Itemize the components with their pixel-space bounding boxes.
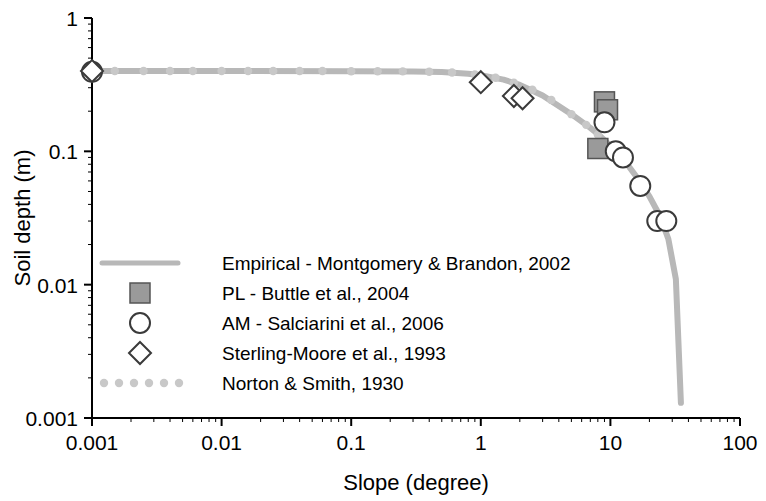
series-norton-smith-point xyxy=(547,96,555,104)
series-norton-smith-point xyxy=(269,67,277,75)
series-norton-smith-point xyxy=(399,67,407,75)
legend-marker-norton-smith-dots xyxy=(115,379,123,387)
series-am-salciarini-point xyxy=(656,211,676,231)
series-norton-smith-point xyxy=(217,67,225,75)
legend-marker-norton-smith-dots xyxy=(100,379,108,387)
x-tick-label: 0.1 xyxy=(337,431,366,454)
series-am-salciarini-point xyxy=(613,147,633,167)
series-norton-smith-point xyxy=(425,68,433,76)
series-norton-smith-point xyxy=(244,67,252,75)
chart-container: 0.0010.010.11101000.0010.010.11Slope (de… xyxy=(0,0,766,501)
chart-drawing-layer: 0.0010.010.11101000.0010.010.11Slope (de… xyxy=(10,7,758,495)
legend-label-3: Sterling-Moore et al., 1993 xyxy=(222,343,446,364)
x-tick-label: 1 xyxy=(475,431,487,454)
series-norton-smith-point xyxy=(111,67,119,75)
series-norton-smith-point xyxy=(318,67,326,75)
legend-marker-am-salciarini-circle xyxy=(130,313,150,333)
legend-marker-norton-smith-dots xyxy=(130,379,138,387)
legend-marker-pl-buttle-square xyxy=(130,283,150,303)
legend-marker-norton-smith-dots xyxy=(160,379,168,387)
legend-marker-sterling-moore-diamond xyxy=(129,342,151,364)
series-pl-buttle-point xyxy=(588,139,608,159)
x-tick-label: 100 xyxy=(722,431,757,454)
y-tick-label: 1 xyxy=(66,7,78,30)
series-norton-smith-point xyxy=(166,67,174,75)
series-norton-smith-point xyxy=(582,121,590,129)
series-norton-smith-point xyxy=(189,67,197,75)
legend-label-0: Empirical - Montgomery & Brandon, 2002 xyxy=(222,253,571,274)
series-norton-smith-point xyxy=(139,67,147,75)
series-am-salciarini-point xyxy=(594,112,614,132)
y-tick-label: 0.01 xyxy=(37,274,78,297)
series-norton-smith-point xyxy=(347,67,355,75)
y-tick-label: 0.001 xyxy=(25,407,78,430)
y-axis-title: Soil depth (m) xyxy=(10,150,35,287)
x-tick-label: 0.001 xyxy=(66,431,119,454)
series-norton-smith-point xyxy=(491,74,499,82)
legend-label-4: Norton & Smith, 1930 xyxy=(222,373,404,394)
series-am-salciarini-point xyxy=(630,176,650,196)
series-norton-smith-point xyxy=(295,67,303,75)
legend-label-2: AM - Salciarini et al., 2006 xyxy=(222,313,444,334)
soil-depth-vs-slope-chart: 0.0010.010.11101000.0010.010.11Slope (de… xyxy=(0,0,766,501)
legend-label-1: PL - Buttle et al., 2004 xyxy=(222,283,410,304)
x-tick-label: 0.01 xyxy=(201,431,242,454)
series-norton-smith-point xyxy=(373,67,381,75)
legend-marker-norton-smith-dots xyxy=(175,379,183,387)
legend-marker-norton-smith-dots xyxy=(145,379,153,387)
series-norton-smith-point xyxy=(448,68,456,76)
x-axis-title: Slope (degree) xyxy=(343,470,489,495)
series-norton-smith-point xyxy=(528,85,536,93)
x-tick-label: 10 xyxy=(599,431,622,454)
y-tick-label: 0.1 xyxy=(49,140,78,163)
series-norton-smith-point xyxy=(567,110,575,118)
